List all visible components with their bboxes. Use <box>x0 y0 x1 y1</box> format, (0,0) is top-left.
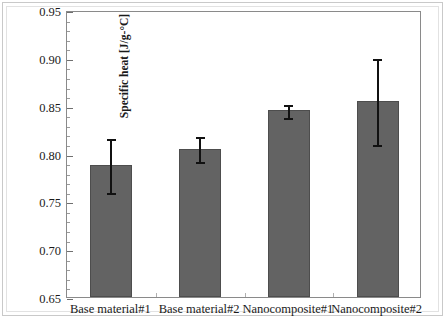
figure-container: Specific heat [J/g-°C] 0.650.700.750.800… <box>0 0 447 333</box>
y-tick-minor <box>67 117 70 118</box>
y-tick-minor <box>67 222 70 223</box>
y-tick-minor <box>67 289 70 290</box>
error-bar-cap-bottom <box>373 145 382 147</box>
x-category-label: Nanocomposite#1 <box>242 302 333 317</box>
x-category-label: Base material#1 <box>70 302 151 317</box>
error-bar-cap-bottom <box>284 118 293 120</box>
x-category-label: Base material#2 <box>159 302 240 317</box>
y-tick-minor <box>67 31 70 32</box>
bar <box>179 149 221 297</box>
error-bar-cap-top <box>373 59 382 61</box>
error-bar-line <box>110 139 112 194</box>
y-tick-minor <box>67 136 70 137</box>
y-tick-minor <box>67 89 70 90</box>
y-tick-label: 0.65 <box>39 292 61 307</box>
y-tick-minor <box>67 22 70 23</box>
y-tick-minor <box>67 165 70 166</box>
y-tick-minor <box>67 50 70 51</box>
plot-frame: Specific heat [J/g-°C] 0.650.700.750.800… <box>66 11 421 298</box>
y-tick-major <box>67 60 73 61</box>
y-tick-minor <box>67 175 70 176</box>
y-tick-minor <box>67 213 70 214</box>
error-bar-cap-bottom <box>196 162 205 164</box>
y-tick-major <box>67 108 73 109</box>
y-tick-major <box>67 12 73 13</box>
y-tick-minor <box>67 270 70 271</box>
y-tick-minor <box>67 232 70 233</box>
y-tick-major <box>67 203 73 204</box>
y-tick-major <box>67 299 73 300</box>
y-tick-minor <box>67 261 70 262</box>
y-tick-minor <box>67 98 70 99</box>
y-tick-minor <box>67 184 70 185</box>
error-bar-line <box>377 59 379 147</box>
y-tick-minor <box>67 127 70 128</box>
error-bar-cap-top <box>107 139 116 141</box>
y-tick-label: 0.75 <box>39 196 61 211</box>
y-tick-label: 0.85 <box>39 100 61 115</box>
y-tick-minor <box>67 146 70 147</box>
figure-caption <box>8 321 440 332</box>
error-bar-cap-bottom <box>107 193 116 195</box>
y-tick-minor <box>67 79 70 80</box>
y-tick-minor <box>67 69 70 70</box>
x-tick-minor <box>245 293 246 297</box>
y-tick-label: 0.95 <box>39 5 61 20</box>
error-bar-line <box>199 137 201 164</box>
x-category-label: Nanocomposite#2 <box>331 302 422 317</box>
x-tick-minor <box>156 293 157 297</box>
y-tick-minor <box>67 194 70 195</box>
y-tick-minor <box>67 280 70 281</box>
bar <box>268 110 310 297</box>
plot-area: 0.650.700.750.800.850.900.95 <box>67 12 420 297</box>
x-tick-minor <box>333 293 334 297</box>
y-tick-minor <box>67 41 70 42</box>
y-tick-label: 0.70 <box>39 244 61 259</box>
y-tick-label: 0.80 <box>39 148 61 163</box>
y-tick-minor <box>67 242 70 243</box>
y-tick-label: 0.90 <box>39 52 61 67</box>
y-tick-major <box>67 251 73 252</box>
error-bar-cap-top <box>284 105 293 107</box>
error-bar-cap-top <box>196 137 205 139</box>
y-tick-major <box>67 156 73 157</box>
